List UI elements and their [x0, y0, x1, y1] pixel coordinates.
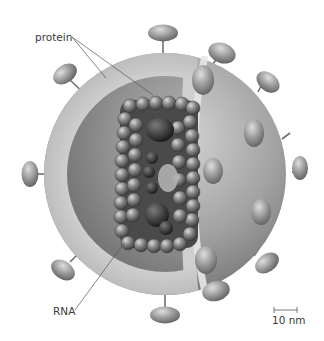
scale-bar-label: 10 nm [272, 315, 306, 326]
virus-diagram: protein RNA 10 nm [0, 0, 324, 341]
rna-label: RNA [53, 306, 75, 317]
capsid-core [114, 96, 200, 253]
virus-illustration [0, 0, 324, 341]
protein-label: protein [35, 32, 72, 43]
scale-bar [274, 307, 297, 313]
